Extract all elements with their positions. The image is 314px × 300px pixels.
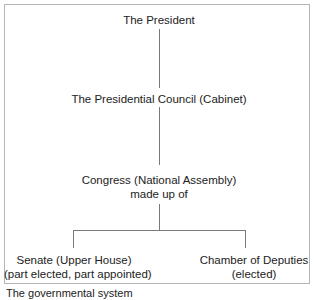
node-congress: Congress (National Assembly) made up of: [69, 173, 249, 201]
node-president: The President: [109, 13, 209, 27]
node-deputies: Chamber of Deputies (elected): [199, 253, 309, 281]
node-senate-sublabel: (part elected, part appointed): [4, 267, 144, 281]
edge-president-council: [159, 29, 160, 88]
diagram-frame: [4, 4, 310, 284]
node-senate-label: Senate (Upper House): [4, 253, 144, 267]
node-council-label: The Presidential Council (Cabinet): [71, 93, 246, 105]
edge-council-congress: [159, 107, 160, 165]
edge-congress-branch: [159, 204, 160, 231]
edge-branch-senate: [73, 230, 74, 248]
node-congress-sublabel: made up of: [69, 187, 249, 201]
figure-caption: The governmental system: [6, 287, 133, 300]
edge-branch-deputies: [245, 230, 246, 248]
node-president-label: The President: [123, 14, 195, 26]
node-deputies-sublabel: (elected): [199, 267, 309, 281]
edge-branch-horizontal: [73, 230, 246, 231]
node-council: The Presidential Council (Cabinet): [59, 92, 259, 106]
node-congress-label: Congress (National Assembly): [69, 173, 249, 187]
node-senate: Senate (Upper House) (part elected, part…: [4, 253, 144, 281]
node-deputies-label: Chamber of Deputies: [199, 253, 309, 267]
